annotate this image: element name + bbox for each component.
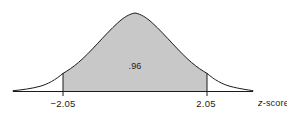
x-axis-label-suffix: -score xyxy=(263,98,287,108)
distribution-curve-graphic xyxy=(0,0,287,123)
x-axis-label: z-score xyxy=(258,99,287,108)
shaded-area-region xyxy=(63,13,207,92)
normal-distribution-figure: −2.05 2.05 .96 z-score xyxy=(0,0,287,123)
shaded-area-value-label: .96 xyxy=(128,62,141,71)
tick-label-left: −2.05 xyxy=(50,99,75,109)
tick-label-right: 2.05 xyxy=(196,99,215,109)
